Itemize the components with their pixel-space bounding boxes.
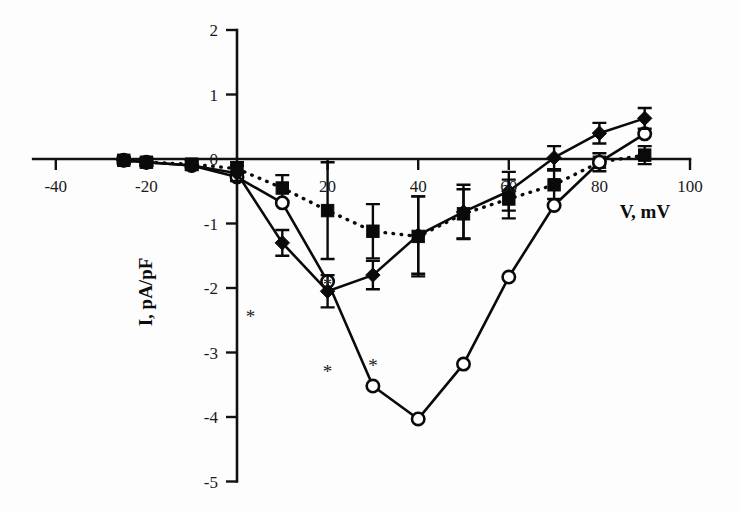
y-tick-label: -5 bbox=[204, 473, 218, 492]
marker-open-circle bbox=[367, 380, 379, 392]
y-axis-title: I, pA/pF bbox=[135, 258, 156, 327]
current-voltage-plot: **** -40-2020406080100210-1-2-3-4-5V, mV… bbox=[0, 0, 740, 512]
x-tick-label: 100 bbox=[677, 177, 703, 196]
marker-filled-square bbox=[321, 204, 333, 216]
marker-filled-diamond bbox=[592, 126, 606, 140]
series-line-filled-diamond-solid bbox=[124, 118, 645, 291]
y-tick-label: 2 bbox=[210, 21, 219, 40]
series-line-open-circle-solid bbox=[124, 134, 645, 419]
annotation-layer: **** bbox=[246, 274, 378, 382]
x-tick-label: 20 bbox=[319, 177, 336, 196]
marker-open-circle bbox=[503, 271, 515, 283]
marker-open-circle bbox=[457, 358, 469, 370]
marker-filled-diamond bbox=[638, 111, 652, 125]
x-tick-label: 40 bbox=[410, 177, 427, 196]
series-group-filled-diamond-solid bbox=[117, 108, 652, 307]
y-tick-label: -1 bbox=[204, 215, 218, 234]
x-tick-label: 80 bbox=[591, 177, 608, 196]
y-tick-label: -3 bbox=[204, 344, 218, 363]
figure-container: **** -40-2020406080100210-1-2-3-4-5V, mV… bbox=[0, 0, 740, 512]
y-tick-label: 0 bbox=[210, 150, 219, 169]
marker-open-circle bbox=[548, 199, 560, 211]
significance-asterisk: * bbox=[368, 355, 378, 376]
marker-open-circle bbox=[276, 197, 288, 209]
marker-filled-square bbox=[276, 182, 288, 194]
x-tick-label: 60 bbox=[500, 177, 517, 196]
marker-filled-square bbox=[639, 149, 651, 161]
significance-asterisk: * bbox=[323, 274, 333, 295]
y-tick-label: -2 bbox=[204, 279, 218, 298]
axes-layer bbox=[33, 30, 690, 482]
significance-asterisk: * bbox=[323, 361, 333, 382]
x-tick-label: -40 bbox=[44, 177, 67, 196]
series-layer bbox=[117, 108, 652, 425]
x-tick-label: -20 bbox=[135, 177, 158, 196]
marker-open-circle bbox=[412, 413, 424, 425]
marker-filled-square bbox=[548, 179, 560, 191]
y-tick-label: 1 bbox=[210, 86, 219, 105]
y-tick-label: -4 bbox=[204, 408, 219, 427]
x-axis-title: V, mV bbox=[620, 201, 671, 222]
marker-filled-square bbox=[367, 225, 379, 237]
significance-asterisk: * bbox=[246, 306, 256, 327]
marker-open-circle bbox=[593, 156, 605, 168]
series-group-open-circle-solid bbox=[118, 128, 651, 425]
